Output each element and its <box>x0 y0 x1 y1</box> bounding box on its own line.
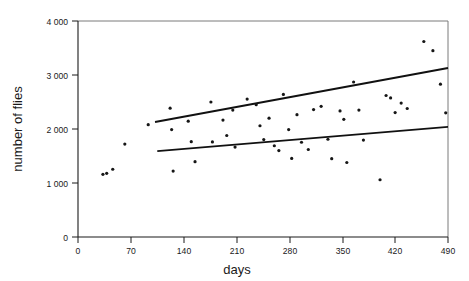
data-point <box>111 168 114 171</box>
x-axis: 0 70 140 210 280 350 420 490 days <box>76 237 456 277</box>
data-point <box>101 173 104 176</box>
data-point <box>400 101 403 104</box>
data-point <box>262 138 265 141</box>
data-point <box>211 140 214 143</box>
fit-lines-group <box>155 68 448 151</box>
x-axis-ticks <box>78 237 448 243</box>
data-point <box>287 128 290 131</box>
x-axis-title: days <box>223 262 251 277</box>
data-point <box>362 138 365 141</box>
data-point <box>258 124 261 127</box>
x-tick-label: 280 <box>283 246 298 256</box>
x-tick-label: 0 <box>76 246 81 256</box>
y-tick-label: 2 000 <box>46 125 68 135</box>
data-point <box>267 117 270 120</box>
y-tick-label: 3 000 <box>46 71 68 81</box>
data-point <box>105 172 108 175</box>
data-point <box>312 108 315 111</box>
data-point <box>384 94 387 97</box>
data-point <box>193 160 196 163</box>
data-point <box>320 105 323 108</box>
data-point <box>422 40 425 43</box>
data-point <box>406 107 409 110</box>
x-tick-label: 420 <box>388 246 403 256</box>
data-points-group <box>101 40 447 181</box>
data-point <box>221 118 224 121</box>
data-point <box>190 140 193 143</box>
data-point <box>394 111 397 114</box>
x-tick-label: 70 <box>126 246 136 256</box>
data-point <box>307 148 310 151</box>
data-point <box>444 111 447 114</box>
y-tick-label: 1 000 <box>46 179 68 189</box>
data-point <box>225 134 228 137</box>
data-point <box>345 161 348 164</box>
x-tick-label: 210 <box>230 246 245 256</box>
data-point <box>170 128 173 131</box>
data-point <box>231 109 234 112</box>
data-point <box>338 109 341 112</box>
data-point <box>295 113 298 116</box>
y-axis-title: number of flies <box>10 86 25 172</box>
data-point <box>326 138 329 141</box>
data-point <box>352 80 355 83</box>
data-point <box>172 170 175 173</box>
y-tick-label: 0 <box>63 233 68 243</box>
data-point <box>255 103 258 106</box>
data-point <box>246 97 249 100</box>
data-point <box>431 49 434 52</box>
data-point <box>187 120 190 123</box>
data-point <box>439 83 442 86</box>
data-point <box>378 178 381 181</box>
y-axis: 4 000 3 000 2 000 1 000 0 number of flie… <box>10 17 78 243</box>
data-point <box>277 149 280 152</box>
y-axis-ticks <box>72 21 78 237</box>
lower-regression-line <box>157 127 448 151</box>
data-point <box>290 157 293 160</box>
upper-regression-line <box>155 68 448 122</box>
data-point <box>123 143 126 146</box>
y-tick-label: 4 000 <box>46 17 68 27</box>
data-point <box>389 96 392 99</box>
x-tick-label: 350 <box>336 246 351 256</box>
data-point <box>273 144 276 147</box>
data-point <box>169 107 172 110</box>
plot-frame <box>78 21 448 237</box>
data-point <box>330 157 333 160</box>
data-point <box>147 123 150 126</box>
data-point <box>342 118 345 121</box>
scatter-plot-svg: 4 000 3 000 2 000 1 000 0 number of flie… <box>0 0 469 281</box>
data-point <box>300 141 303 144</box>
data-point <box>282 93 285 96</box>
x-tick-label: 490 <box>441 246 456 256</box>
x-tick-label: 140 <box>177 246 192 256</box>
data-point <box>209 100 212 103</box>
data-point <box>233 145 236 148</box>
data-point <box>357 109 360 112</box>
chart-figure: 4 000 3 000 2 000 1 000 0 number of flie… <box>0 0 469 281</box>
